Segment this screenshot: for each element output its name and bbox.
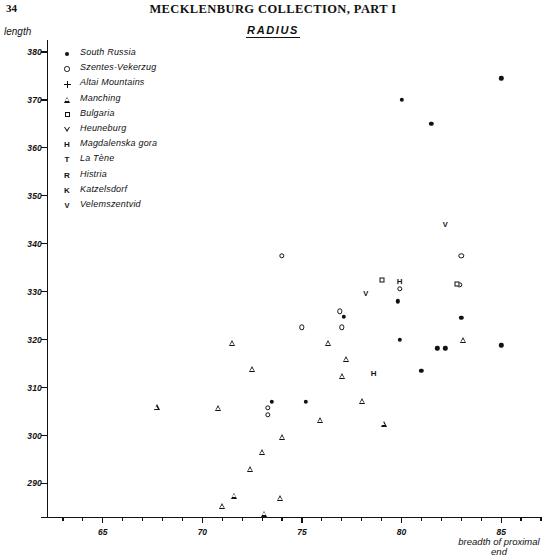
data-point bbox=[499, 76, 503, 80]
data-point bbox=[499, 343, 503, 347]
data-point bbox=[279, 434, 285, 440]
data-point bbox=[459, 253, 464, 258]
data-point bbox=[231, 493, 237, 499]
data-point: V bbox=[363, 290, 368, 298]
data-point bbox=[299, 324, 304, 329]
data-point bbox=[270, 400, 274, 404]
data-point bbox=[261, 511, 267, 517]
data-point bbox=[317, 417, 323, 423]
data-point bbox=[339, 324, 344, 329]
data-point bbox=[154, 404, 160, 410]
data-point bbox=[397, 337, 401, 341]
data-point bbox=[259, 449, 265, 455]
data-point bbox=[399, 98, 403, 102]
data-point bbox=[460, 337, 466, 343]
data-point bbox=[339, 373, 345, 379]
data-point bbox=[279, 253, 284, 258]
data-point bbox=[395, 299, 399, 303]
data-point bbox=[215, 405, 221, 411]
data-point bbox=[381, 421, 387, 427]
data-point bbox=[265, 412, 270, 417]
data-point bbox=[325, 340, 331, 346]
data-point bbox=[459, 316, 463, 320]
data-point bbox=[219, 503, 225, 509]
data-point bbox=[247, 466, 253, 472]
scatter-points: VVHH bbox=[0, 0, 546, 560]
data-point bbox=[419, 369, 423, 373]
data-point: H bbox=[371, 370, 377, 378]
data-point: V bbox=[443, 221, 448, 229]
data-point bbox=[343, 356, 349, 362]
data-point bbox=[337, 309, 342, 314]
figure-page: 34 MECKLENBURG COLLECTION, PART I RADIUS… bbox=[0, 0, 546, 560]
data-point bbox=[443, 346, 447, 350]
data-point bbox=[342, 314, 346, 318]
data-point bbox=[455, 282, 460, 287]
data-point bbox=[229, 340, 235, 346]
data-point bbox=[435, 346, 439, 350]
data-point bbox=[359, 398, 365, 404]
data-point bbox=[304, 400, 308, 404]
data-point bbox=[397, 286, 402, 291]
data-point bbox=[379, 277, 384, 282]
data-point bbox=[249, 366, 255, 372]
data-point bbox=[277, 495, 283, 501]
data-point bbox=[265, 405, 270, 410]
data-point: H bbox=[397, 278, 403, 286]
data-point bbox=[429, 122, 433, 126]
